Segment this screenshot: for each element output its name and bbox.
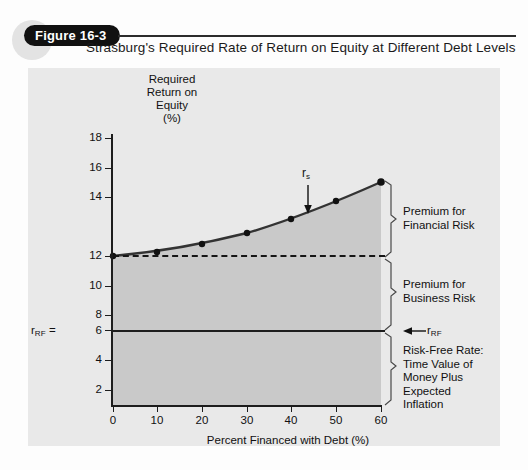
y-tick-label: 12	[76, 249, 102, 261]
x-tick-label: 0	[99, 414, 127, 426]
y-tick-label: 10	[76, 279, 102, 291]
reference-line-risk-free	[113, 330, 385, 332]
rs-sub: s	[306, 172, 310, 181]
y-tick	[105, 168, 112, 169]
rs-label: rs	[302, 166, 310, 180]
y-tick-label: 18	[76, 131, 102, 143]
rrf-left-sub: RF	[35, 329, 46, 338]
rrf-right-label: rRF	[427, 324, 442, 336]
x-tick	[157, 406, 158, 412]
x-tick	[336, 406, 337, 412]
data-point	[333, 198, 339, 204]
y-tick	[105, 197, 112, 198]
premium-financial-risk-note: Premium for Financial Risk	[403, 205, 499, 232]
y-tick-label: 6	[76, 324, 102, 336]
x-tick-label: 40	[277, 414, 305, 426]
y-tick-label: 2	[76, 383, 102, 395]
x-tick	[202, 406, 203, 412]
figure-root: Figure 16-3 Strasburg's Required Rate of…	[0, 0, 528, 470]
fill-financial-risk	[113, 182, 381, 256]
brace-business-risk	[385, 259, 396, 330]
x-tick	[113, 406, 114, 412]
x-tick	[381, 406, 382, 412]
x-tick-label: 60	[367, 414, 395, 426]
figure-title: Strasburg's Required Rate of Return on E…	[86, 40, 522, 55]
y-tick-label: 8	[76, 308, 102, 320]
y-tick	[105, 138, 112, 139]
risk-free-rate-note: Risk-Free Rate: Time Value of Money Plus…	[403, 344, 499, 412]
brace-financial-risk	[385, 181, 396, 257]
y-tick	[105, 330, 112, 331]
x-tick-label: 10	[143, 414, 171, 426]
rrf-right-sub: RF	[431, 329, 442, 338]
premium-business-risk-note: Premium for Business Risk	[403, 278, 499, 305]
y-axis-line	[111, 134, 113, 407]
data-point	[377, 178, 385, 186]
brace-risk-free	[385, 333, 396, 405]
x-tick	[291, 406, 292, 412]
y-tick-label: 16	[76, 161, 102, 173]
header-rule	[118, 35, 516, 37]
chart-panel: Required Return on Equity (%)	[28, 68, 500, 446]
y-tick	[105, 286, 112, 287]
y-tick-label: 14	[76, 190, 102, 202]
data-point	[199, 241, 205, 247]
x-tick	[247, 406, 248, 412]
y-tick	[105, 256, 112, 257]
plot-area: 18 16 14 12 10 8 6 4 2 rRF = 0 1	[28, 68, 500, 446]
rrf-arrow-head	[403, 327, 412, 335]
rrf-left-label: rRF =	[31, 324, 56, 336]
data-point	[288, 216, 294, 222]
rrf-left-equals: =	[46, 324, 56, 336]
data-point	[244, 230, 250, 236]
x-tick-label: 20	[188, 414, 216, 426]
x-tick-label: 30	[233, 414, 261, 426]
y-tick	[105, 360, 112, 361]
y-tick	[105, 390, 112, 391]
y-tick	[105, 315, 112, 316]
x-axis-title: Percent Financed with Debt (%)	[148, 434, 428, 446]
y-tick-label: 4	[76, 353, 102, 365]
figure-header: Figure 16-3 Strasburg's Required Rate of…	[0, 0, 528, 62]
x-tick-label: 50	[322, 414, 350, 426]
reference-line-12	[113, 255, 385, 257]
